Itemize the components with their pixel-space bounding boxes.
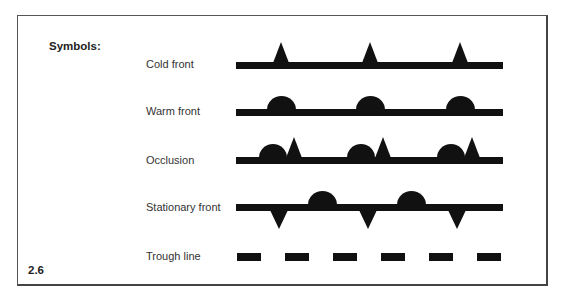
stationary-front-triangle-down-icon <box>359 210 377 229</box>
stationary-front-triangle-down-icon <box>270 210 288 229</box>
occlusion-semicircle-icon <box>347 144 375 158</box>
warm-front-semicircle-icon <box>356 96 385 110</box>
cold-front-triangle-icon <box>452 42 468 63</box>
trough-dash <box>333 253 357 261</box>
occlusion-triangle-icon <box>286 137 302 158</box>
warm-front-symbol <box>236 96 503 116</box>
stationary-front-line <box>236 204 503 211</box>
stationary-front-semicircle-icon <box>308 191 337 205</box>
front-symbols-graphic <box>0 0 564 301</box>
cold-front-triangle-icon <box>273 42 289 63</box>
trough-line-symbol <box>237 253 501 261</box>
occlusion-semicircle-icon <box>437 144 465 158</box>
occlusion-line <box>236 157 503 164</box>
stationary-front-semicircle-icon <box>397 191 426 205</box>
stationary-front-symbol <box>236 191 503 229</box>
trough-dash <box>477 253 501 261</box>
warm-front-semicircle-icon <box>446 96 475 110</box>
occlusion-triangle-icon <box>464 137 480 158</box>
cold-front-triangle-icon <box>362 42 378 63</box>
trough-dash <box>381 253 405 261</box>
stationary-front-triangle-down-icon <box>448 210 466 229</box>
trough-dash <box>237 253 261 261</box>
warm-front-semicircle-icon <box>267 96 296 110</box>
occlusion-triangle-icon <box>375 137 391 158</box>
cold-front-line <box>236 62 503 69</box>
trough-dash <box>285 253 309 261</box>
cold-front-symbol <box>236 42 503 69</box>
occlusion-semicircle-icon <box>259 144 287 158</box>
warm-front-line <box>236 109 503 116</box>
trough-dash <box>429 253 453 261</box>
occlusion-symbol <box>236 137 503 164</box>
